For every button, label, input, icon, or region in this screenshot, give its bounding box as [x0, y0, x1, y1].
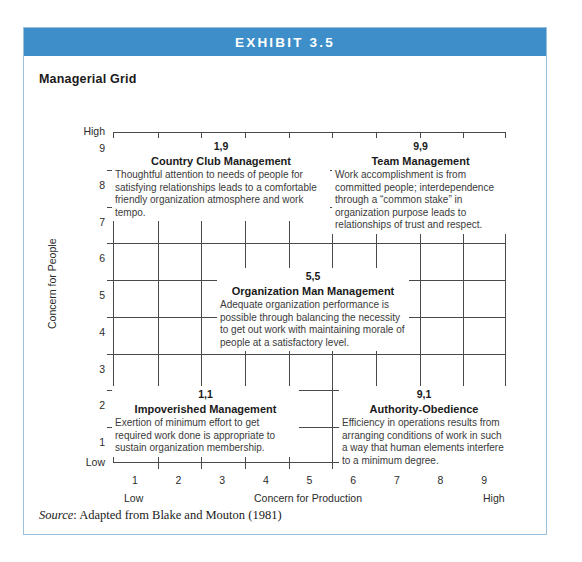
grid-cell-impoverished-management: 1,1 Impoverished Management Exertion of …	[112, 386, 299, 457]
x-axis-tick-label: 4	[254, 474, 278, 486]
x-axis-tick-mark	[332, 462, 333, 469]
y-axis-tick-mark	[107, 317, 114, 318]
exhibit-header-bar: EXHIBIT 3.5	[24, 28, 546, 56]
y-axis-low-label: Low	[69, 456, 105, 468]
grid-cell-organization-man-management: 5,5 Organization Man Management Adequate…	[217, 268, 409, 351]
grid-cell-name: Country Club Management	[115, 154, 327, 168]
y-axis-tick-label: 1	[81, 436, 105, 448]
x-axis-tick-label: 7	[385, 474, 409, 486]
source-citation: : Adapted from Blake and Mouton (1981)	[73, 508, 281, 522]
x-axis-high-label: High	[483, 492, 505, 504]
grid-cell-coordinate: 1,9	[115, 140, 327, 153]
y-axis-title: Concern for People	[46, 239, 58, 329]
grid-cell-authority-obedience: 9,1 Authority-Obedience Efficiency in op…	[339, 386, 509, 469]
x-axis-tick-label: 1	[123, 474, 147, 486]
x-axis-tick-mark	[201, 462, 202, 469]
gridline-horizontal	[114, 243, 505, 244]
grid-cell-coordinate: 9,9	[335, 140, 506, 153]
y-axis-tick-mark	[107, 354, 114, 355]
grid-cell-description: Work accomplishment is from committed pe…	[335, 169, 506, 232]
y-axis-tick-mark	[107, 280, 114, 281]
x-axis-tick-label: 3	[210, 474, 234, 486]
y-axis-tick-mark	[107, 243, 114, 244]
exhibit-number-label: EXHIBIT 3.5	[235, 35, 335, 50]
exhibit-body: Managerial Grid Concern for People High …	[24, 56, 546, 534]
grid-cell-description: Efficiency in operations results from ar…	[342, 417, 506, 467]
source-note: Source: Adapted from Blake and Mouton (1…	[39, 508, 282, 523]
x-axis-tick-mark	[158, 462, 159, 469]
y-axis-tick-label: 4	[81, 326, 105, 338]
grid-plot-area: 1,9 Country Club Management Thoughtful a…	[113, 132, 506, 463]
grid-cell-coordinate: 1,1	[115, 388, 296, 401]
x-axis-title: Concern for Production	[254, 492, 362, 504]
grid-cell-name: Authority-Obedience	[342, 402, 506, 416]
grid-cell-description: Exertion of minimum effort to get requir…	[115, 417, 296, 455]
managerial-grid-chart: Concern for People High Low 9 8 7 6 5 4 …	[24, 104, 546, 494]
grid-cell-description: Thoughtful attention to needs of people …	[115, 169, 327, 219]
grid-cell-country-club-management: 1,9 Country Club Management Thoughtful a…	[112, 138, 330, 221]
x-axis-tick-mark	[245, 462, 246, 469]
x-axis-tick-mark	[289, 462, 290, 469]
grid-cell-description: Adequate organization performance is pos…	[220, 299, 406, 349]
y-axis-high-label: High	[69, 125, 105, 137]
y-axis-tick-label: 7	[81, 216, 105, 228]
x-axis-low-label: Low	[124, 492, 143, 504]
y-axis-tick-label: 5	[81, 289, 105, 301]
grid-cell-name: Impoverished Management	[115, 402, 296, 416]
y-axis-tick-label: 2	[81, 399, 105, 411]
grid-cell-coordinate: 5,5	[220, 270, 406, 283]
grid-cell-name: Organization Man Management	[220, 284, 406, 298]
y-axis-tick-label: 8	[81, 179, 105, 191]
grid-cell-name: Team Management	[335, 154, 506, 168]
x-axis-tick-label: 5	[298, 474, 322, 486]
y-axis-tick-label: 3	[81, 363, 105, 375]
y-axis-tick-label: 9	[81, 142, 105, 154]
gridline-horizontal	[114, 354, 505, 355]
x-axis-tick-label: 8	[429, 474, 453, 486]
x-axis-tick-label: 2	[167, 474, 191, 486]
x-axis-tick-label: 9	[472, 474, 496, 486]
x-axis-tick-label: 6	[341, 474, 365, 486]
exhibit-frame: EXHIBIT 3.5 Managerial Grid Concern for …	[23, 27, 547, 535]
grid-cell-coordinate: 9,1	[342, 388, 506, 401]
grid-cell-team-management: 9,9 Team Management Work accomplishment …	[332, 138, 509, 234]
y-axis-tick-label: 6	[81, 252, 105, 264]
source-label: Source	[39, 508, 73, 522]
figure-title: Managerial Grid	[39, 72, 136, 86]
